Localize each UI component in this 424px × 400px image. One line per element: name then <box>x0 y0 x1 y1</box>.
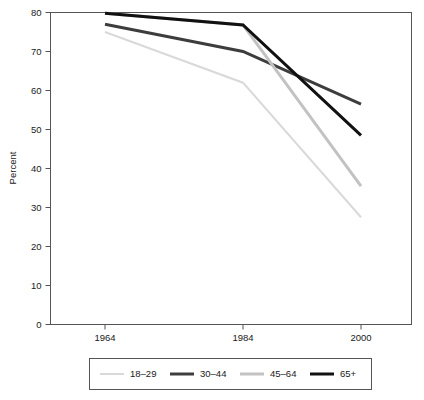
y-tick-label: 10 <box>31 280 42 291</box>
y-tick-label: 30 <box>31 202 42 213</box>
legend-label: 18–29 <box>130 368 156 379</box>
legend-label: 65+ <box>340 368 357 379</box>
x-tick-label: 1984 <box>232 332 253 343</box>
y-tick-label: 60 <box>31 85 42 96</box>
y-tick-label: 70 <box>31 46 42 57</box>
y-tick-label: 0 <box>36 319 41 330</box>
legend-label: 45–64 <box>270 368 296 379</box>
line-chart-figure: 80706050403020100 196419842000 Percent 1… <box>0 0 424 400</box>
x-tick-label: 1964 <box>94 332 115 343</box>
y-tick-label: 40 <box>31 163 42 174</box>
y-axis-title: Percent <box>7 151 18 184</box>
x-tick-label: 2000 <box>350 332 371 343</box>
legend-label: 30–44 <box>200 368 226 379</box>
y-tick-label: 20 <box>31 241 42 252</box>
y-tick-label: 50 <box>31 124 42 135</box>
y-tick-label: 80 <box>31 7 42 18</box>
